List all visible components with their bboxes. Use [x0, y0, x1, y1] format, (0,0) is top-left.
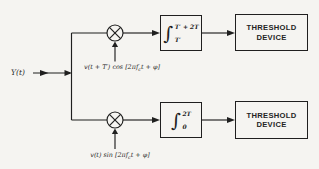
integral-limits: T′ + 2T T′	[175, 23, 199, 42]
upper-limit: T′ + 2T	[175, 23, 199, 29]
label-text: v(t) sin [2πf	[90, 151, 128, 159]
bottom-branch-wires	[72, 117, 236, 149]
block-diagram: Y(t) v(t + T′) cos [2πfct + φ] v(t) sin …	[0, 0, 319, 169]
label-text: v(t + T′) cos [2πf	[84, 63, 138, 71]
input-signal-label: Y(t)	[11, 69, 25, 77]
label-line1: THRESHOLD	[247, 23, 297, 33]
integral-icon: ∫	[163, 25, 173, 42]
label-text: t + φ]	[141, 63, 160, 71]
multiplier-icon	[107, 112, 123, 128]
top-branch-wires	[72, 30, 236, 62]
top-carrier-label: v(t + T′) cos [2πfct + φ]	[74, 64, 170, 71]
integral-limits: 2T 0	[182, 110, 191, 129]
input-arrow	[33, 70, 72, 76]
label-text: t + φ]	[131, 151, 150, 159]
top-threshold-device-block: THRESHOLD DEVICE	[235, 14, 308, 51]
threshold-device-label: THRESHOLD DEVICE	[247, 111, 297, 130]
top-integrator-block: ∫ T′ + 2T T′	[160, 15, 202, 51]
upper-limit: 2T	[182, 110, 191, 116]
lower-limit: T′	[175, 36, 199, 42]
multiplier-icon	[107, 25, 123, 41]
label-line2: DEVICE	[247, 33, 297, 43]
label-line2: DEVICE	[247, 120, 297, 130]
integral-icon: ∫	[171, 112, 181, 129]
lower-limit: 0	[182, 123, 191, 129]
bottom-carrier-label: v(t) sin [2πfct + φ]	[77, 152, 163, 159]
threshold-device-label: THRESHOLD DEVICE	[247, 23, 297, 42]
bottom-integrator-block: ∫ 2T 0	[160, 102, 202, 138]
bottom-threshold-device-block: THRESHOLD DEVICE	[235, 101, 308, 139]
label-line1: THRESHOLD	[247, 111, 297, 121]
